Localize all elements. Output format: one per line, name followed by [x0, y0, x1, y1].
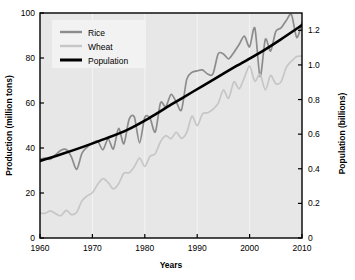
x-axis-title: Years [160, 260, 183, 270]
dual-axis-line-chart: 02040608010000.20.40.60.81.01.2196019701… [0, 0, 355, 280]
y-axis-tick-label: 80 [26, 53, 36, 63]
y-axis-tick-label: 60 [26, 98, 36, 108]
legend-label-population: Population [88, 56, 128, 66]
y2-axis-tick-label: 1.0 [308, 60, 320, 70]
x-axis-tick-label: 1970 [83, 243, 102, 253]
x-axis-tick-label: 2000 [240, 243, 259, 253]
y-axis-title: Production (million tons) [4, 75, 14, 176]
y2-axis-tick-label: 1.2 [308, 25, 320, 35]
y2-axis-tick-label: 0 [308, 233, 313, 243]
y-axis-tick-label: 40 [26, 143, 36, 153]
legend-label-rice: Rice [88, 28, 105, 38]
y2-axis-tick-label: 0.6 [308, 129, 320, 139]
y-axis-tick-label: 0 [30, 233, 35, 243]
legend: RiceWheatPopulation [52, 20, 146, 68]
y2-axis-tick-label: 0.8 [308, 95, 320, 105]
x-axis-tick-label: 1960 [31, 243, 50, 253]
y2-axis-tick-label: 0.2 [308, 198, 320, 208]
y-axis-tick-label: 20 [26, 188, 36, 198]
x-axis-tick-label: 1980 [135, 243, 154, 253]
x-axis-tick-label: 1990 [188, 243, 207, 253]
y-axis-tick-label: 100 [21, 8, 35, 18]
x-axis-tick-label: 2010 [293, 243, 312, 253]
y2-axis-tick-label: 0.4 [308, 164, 320, 174]
chart-container: 02040608010000.20.40.60.81.01.2196019701… [0, 0, 355, 280]
y2-axis-title: Population (billions) [337, 92, 347, 174]
legend-label-wheat: Wheat [88, 42, 113, 52]
